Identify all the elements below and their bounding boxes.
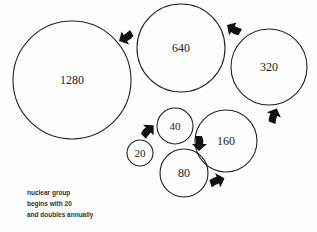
circle-40: 40: [157, 108, 193, 144]
circle-20: 20: [127, 140, 153, 166]
circle-160: 160: [195, 110, 257, 172]
caption: nuclear group begins with 20 and doubles…: [27, 187, 93, 220]
circle-label: 1280: [60, 73, 84, 87]
caption-line-1: nuclear group: [27, 187, 93, 198]
caption-line-2: begins with 20: [27, 198, 93, 209]
arrow-icon: [223, 19, 243, 39]
circle-label: 20: [135, 147, 147, 159]
arrow-icon: [116, 27, 136, 47]
arrow-icon: [208, 171, 227, 190]
circle-label: 320: [260, 60, 278, 74]
circle-label: 640: [172, 41, 190, 55]
circle-320: 320: [231, 29, 307, 105]
circle-1280: 1280: [13, 21, 131, 139]
circle-80: 80: [160, 149, 208, 197]
growth-diagram: 2040801603206401280 nuclear group begins…: [0, 0, 317, 232]
arrow-icon: [192, 136, 207, 151]
circle-label: 80: [178, 166, 190, 180]
arrow-icon: [137, 120, 158, 141]
circle-label: 40: [170, 120, 182, 132]
arrow-icon: [264, 106, 283, 125]
circle-640: 640: [137, 4, 225, 92]
caption-line-3: and doubles annually: [27, 209, 93, 220]
circle-label: 160: [217, 134, 235, 148]
